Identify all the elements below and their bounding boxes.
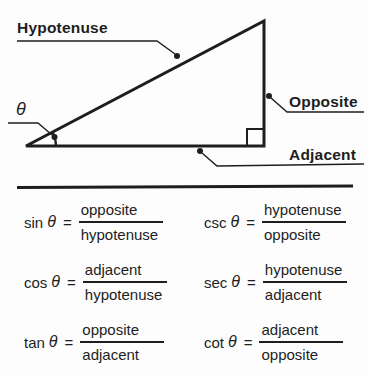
opposite-label: Opposite <box>289 93 358 110</box>
opposite-leader-dot <box>266 93 272 99</box>
formula-csc: cscθ = hypotenuse opposite <box>204 202 364 242</box>
equals-sign: = <box>65 335 74 350</box>
adjacent-leader-dot <box>197 148 203 154</box>
formula-cos: cosθ = adjacent hypotenuse <box>24 262 204 302</box>
triangle-figure: θ Hypotenuse Opposite Adjacent <box>0 0 367 196</box>
fn-label: cot <box>204 335 224 350</box>
denominator: adjacent <box>263 283 347 302</box>
formula-tan: tanθ = opposite adjacent <box>24 322 204 362</box>
theta-symbol: θ <box>47 214 56 230</box>
denominator: hypotenuse <box>83 283 167 302</box>
numerator: opposite <box>80 322 164 343</box>
equals-sign: = <box>63 215 72 230</box>
denominator: adjacent <box>80 343 164 362</box>
numerator: hypotenuse <box>263 262 347 283</box>
theta-symbol: θ <box>228 334 237 350</box>
theta-leader-line <box>8 123 52 135</box>
theta-symbol: θ <box>231 214 240 230</box>
fraction: hypotenuse adjacent <box>263 262 347 302</box>
denominator: opposite <box>259 343 343 362</box>
section-divider <box>17 186 353 188</box>
equals-sign: = <box>244 335 253 350</box>
adjacent-label: Adjacent <box>289 146 356 163</box>
formula-sec: secθ = hypotenuse adjacent <box>204 262 364 302</box>
theta-symbol: θ <box>231 274 240 290</box>
numerator: hypotenuse <box>262 202 346 223</box>
trig-ratios-diagram: θ Hypotenuse Opposite Adjacent sinθ = op… <box>0 0 367 377</box>
fn-label: csc <box>204 215 227 230</box>
formula-grid: sinθ = opposite hypotenuse cscθ = hypote… <box>24 192 364 372</box>
right-triangle <box>26 21 264 146</box>
theta-symbol: θ <box>49 334 58 350</box>
denominator: opposite <box>262 223 346 242</box>
fn-label: sin <box>24 215 43 230</box>
numerator: opposite <box>79 202 163 223</box>
fraction: hypotenuse opposite <box>262 202 346 242</box>
fn-label: cos <box>24 275 47 290</box>
fraction: adjacent hypotenuse <box>83 262 167 302</box>
theta-symbol: θ <box>51 274 60 290</box>
hypotenuse-label: Hypotenuse <box>17 19 108 36</box>
fraction: adjacent opposite <box>259 322 343 362</box>
fn-label: sec <box>204 275 227 290</box>
equals-sign: = <box>247 275 256 290</box>
denominator: hypotenuse <box>79 223 163 242</box>
hypotenuse-leader-line <box>17 41 175 54</box>
fraction: opposite adjacent <box>80 322 164 362</box>
numerator: adjacent <box>83 262 167 283</box>
formula-sin: sinθ = opposite hypotenuse <box>24 202 204 242</box>
formula-cot: cotθ = adjacent opposite <box>204 322 364 362</box>
hypotenuse-leader-dot <box>174 53 180 59</box>
numerator: adjacent <box>259 322 343 343</box>
theta-label: θ <box>16 99 26 119</box>
theta-leader-dot <box>52 134 58 140</box>
right-angle-marker <box>247 129 264 146</box>
fn-label: tan <box>24 335 45 350</box>
fraction: opposite hypotenuse <box>79 202 163 242</box>
equals-sign: = <box>246 215 255 230</box>
equals-sign: = <box>67 275 76 290</box>
